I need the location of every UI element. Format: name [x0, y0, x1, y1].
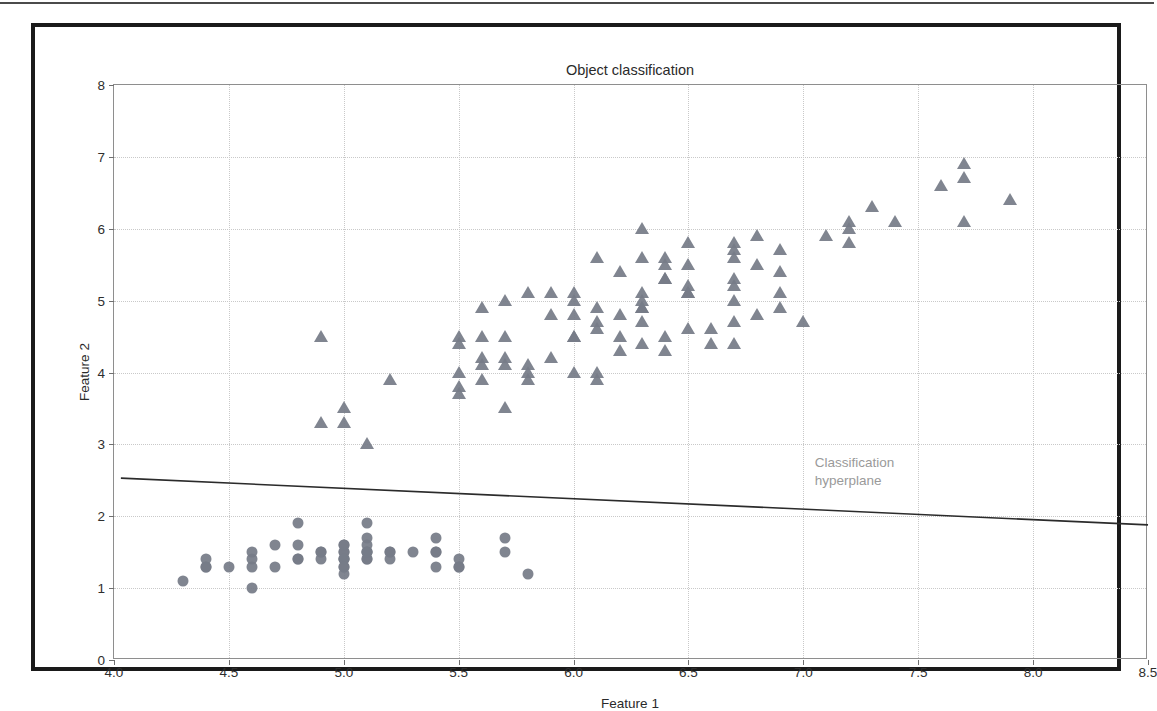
x-axis-title: Feature 1: [601, 696, 659, 711]
y-tick-label: 2: [97, 509, 105, 524]
x-tick-label: 8.0: [1024, 665, 1043, 680]
x-tick-label: 6.5: [679, 665, 698, 680]
x-tick-label: 7.5: [909, 665, 928, 680]
hyperplane-annotation: Classification hyperplane: [815, 454, 895, 490]
x-tick-label: 5.5: [449, 665, 468, 680]
y-tick-label: 8: [97, 78, 105, 93]
figure-frame: Object classification Feature 1 Feature …: [31, 23, 1121, 671]
hyperplane-annotation-line2: hyperplane: [815, 472, 895, 490]
page-top-rule: [0, 2, 1154, 4]
x-tick-label: 6.0: [564, 665, 583, 680]
classification-hyperplane-line: [114, 85, 1148, 660]
y-tick-label: 3: [97, 437, 105, 452]
y-tick-label: 5: [97, 293, 105, 308]
y-tick-label: 1: [97, 581, 105, 596]
x-tick-label: 4.0: [105, 665, 124, 680]
x-tick-label: 4.5: [219, 665, 238, 680]
x-tick-label: 8.5: [1139, 665, 1157, 680]
y-tick-label: 4: [97, 365, 105, 380]
x-tick-label: 5.0: [334, 665, 353, 680]
plot-area: Object classification Feature 1 Feature …: [113, 84, 1147, 659]
x-tick-label: 7.0: [794, 665, 813, 680]
y-tick-label: 6: [97, 221, 105, 236]
y-tick-label: 7: [97, 149, 105, 164]
chart-title: Object classification: [566, 62, 694, 78]
y-axis-title: Feature 2: [77, 343, 92, 401]
hyperplane-annotation-line1: Classification: [815, 454, 895, 472]
